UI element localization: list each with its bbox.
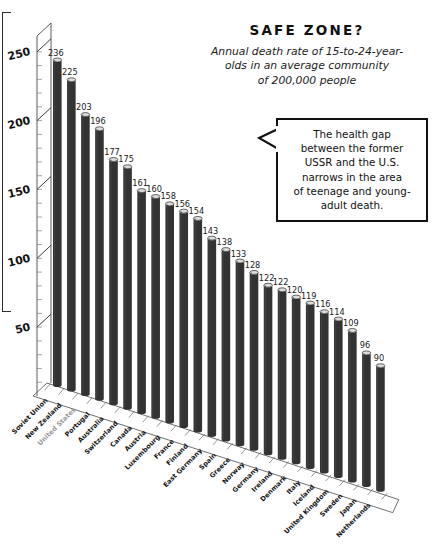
bar (236, 259, 245, 446)
bar (67, 78, 76, 392)
bar-value-label: 203 (76, 102, 92, 112)
bar (165, 202, 174, 424)
bar-value-label: 133 (231, 249, 247, 259)
bar-value-label: 96 (360, 340, 370, 350)
bar (53, 58, 62, 387)
bar (264, 283, 273, 455)
bar (362, 351, 371, 487)
bar-value-label: 109 (343, 318, 359, 328)
svg-text:200: 200 (6, 114, 32, 132)
callout-box: The health gap between the former USSR a… (276, 118, 428, 222)
bar-value-label: 196 (90, 116, 106, 126)
chart-page: SAFE ZONE? Annual death rate of 15-to-24… (0, 0, 440, 558)
svg-text:250: 250 (6, 45, 32, 63)
bar (137, 189, 146, 415)
bar (278, 288, 287, 460)
bar-value-label: 143 (203, 226, 219, 236)
bar (95, 127, 104, 401)
bar-value-label: 225 (62, 67, 78, 77)
svg-text:50: 50 (14, 320, 32, 336)
bar-value-label: 175 (118, 154, 134, 164)
bar (123, 165, 132, 410)
bar (179, 209, 188, 428)
chart-category-labels: Soviet UnionNew ZealandUnited StatesPort… (10, 397, 372, 540)
bar-value-label: 138 (217, 237, 233, 247)
bar (306, 301, 315, 469)
bar (334, 317, 343, 478)
bar-value-label: 128 (245, 260, 261, 270)
chart-plot-area: 50100150200250 2362252031961771751611601… (0, 0, 440, 558)
bar (109, 157, 118, 405)
svg-text:100: 100 (6, 252, 32, 270)
bar-value-label: 154 (188, 206, 204, 216)
chart-y-axis: 50100150200250 (6, 23, 51, 396)
bar-value-label: 236 (48, 48, 64, 58)
bar (222, 248, 231, 442)
bar (194, 216, 203, 432)
callout-text: The health gap between the former USSR a… (278, 120, 426, 212)
bar (81, 113, 90, 397)
bar (376, 364, 385, 492)
bar (208, 236, 217, 437)
chart-svg: 50100150200250 2362252031961771751611601… (0, 0, 440, 558)
callout-tail-icon (257, 126, 281, 152)
bar (320, 310, 329, 474)
bar (348, 328, 357, 482)
bar-value-label: 90 (374, 353, 384, 363)
svg-text:150: 150 (6, 183, 32, 201)
bar-value-label: 114 (329, 307, 345, 317)
bar (250, 270, 259, 450)
bar (292, 295, 301, 464)
bar (151, 195, 160, 419)
